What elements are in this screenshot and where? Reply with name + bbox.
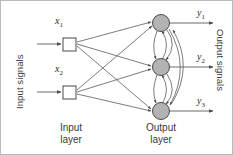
variable-label-x1: x1 [55,15,63,26]
variable-label-y2: y2 [197,51,205,62]
output-layer-label: Output layer [129,122,193,146]
recurrent-y2-to-y3-inner [154,75,157,103]
feedforward-connections [77,22,152,111]
recurrent-y2-to-y1 [162,31,167,60]
connection-x2-y3 [77,94,151,111]
neural-network-figure: Input signals Output signals Input layer… [0,0,233,155]
input-layer-label-line2: layer [39,134,103,146]
output-neuron-y3 [153,103,170,120]
output-layer-label-line2: layer [129,134,193,146]
variable-label-y3: y3 [197,95,205,106]
variable-subscript: 2 [59,69,63,77]
variable-label-y1: y1 [197,7,205,18]
output-arrows [169,23,213,111]
variable-subscript: 1 [59,21,63,29]
input-nodes [63,38,76,99]
input-signals-label: Input signals [14,54,25,109]
recurrent-y1-to-y2-inner [154,31,157,59]
input-layer-label: Input layer [39,122,103,146]
recurrent-y1-to-y2 [166,30,172,60]
variable-subscript: 2 [201,57,205,65]
output-neuron-y1 [153,15,170,32]
output-signals-label: Output signals [215,29,226,91]
network-diagram-canvas [1,1,233,155]
connection-x1-y3 [77,46,151,109]
input-node-x1 [63,38,76,51]
recurrent-y3-to-y1 [172,30,183,103]
recurrent-y3-to-y2 [162,75,167,104]
recurrent-y2-to-y3 [166,74,172,104]
variable-subscript: 3 [201,101,205,109]
variable-subscript: 1 [201,13,205,21]
variable-label-x2: x2 [55,63,63,74]
input-layer-label-line1: Input [39,122,103,134]
input-node-x2 [63,86,76,99]
output-layer-label-line1: Output [129,122,193,134]
connection-x1-y1 [77,22,151,42]
output-neuron-y2 [153,59,170,76]
